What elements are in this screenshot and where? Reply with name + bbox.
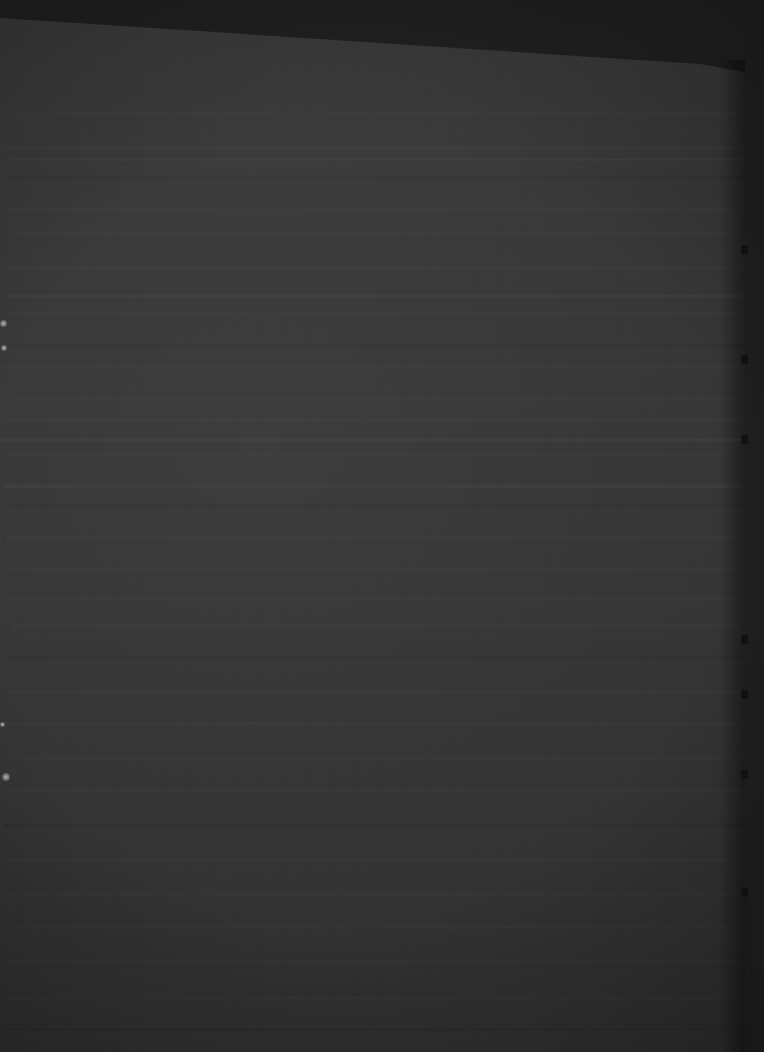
exposure-crush-overlay <box>0 0 764 1052</box>
photograph-frame <box>0 0 764 1052</box>
